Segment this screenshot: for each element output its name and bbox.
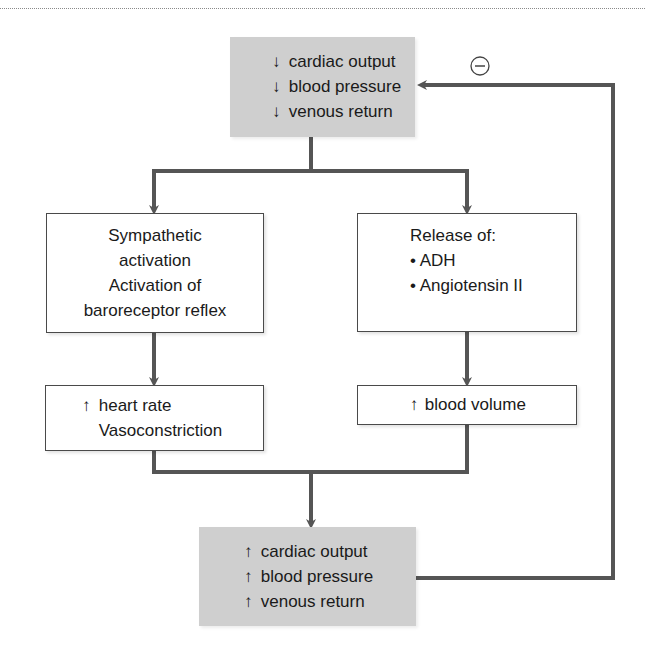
down-arrow-icon: ↓ <box>272 99 284 124</box>
sympathetic-activation-box: Sympathetic activation Activation of bar… <box>46 213 264 333</box>
hormone-release-box: Release of: • ADH • Angiotensin II <box>357 213 577 332</box>
increase-state-box: ↑ cardiac output ↑ blood pressure ↑ veno… <box>199 527 416 626</box>
effect-line: Vasoconstriction <box>82 418 263 443</box>
release-title: Release of: <box>410 223 576 248</box>
up-arrow-icon: ↑ <box>244 539 256 564</box>
down-arrow-icon: ↓ <box>272 49 284 74</box>
state-line: ↑ venous return <box>244 589 416 614</box>
state-line: ↑ cardiac output <box>244 539 416 564</box>
blood-volume-box: ↑ blood volume <box>357 385 577 425</box>
effect-line: ↑ heart rate <box>82 393 263 418</box>
bullet-item: • Angiotensin II <box>410 273 576 298</box>
state-line: ↑ blood pressure <box>244 564 416 589</box>
up-arrow-icon: ↑ <box>82 393 94 418</box>
effect-line: ↑ blood volume <box>358 392 576 417</box>
state-line: ↓ blood pressure <box>272 74 415 99</box>
decrease-state-box: ↓ cardiac output ↓ blood pressure ↓ veno… <box>230 37 415 137</box>
heart-rate-box: ↑ heart rate Vasoconstriction <box>45 385 264 451</box>
up-arrow-icon: ↑ <box>244 589 256 614</box>
bullet-item: • ADH <box>410 248 576 273</box>
down-arrow-icon: ↓ <box>272 74 284 99</box>
up-arrow-icon: ↑ <box>244 564 256 589</box>
state-line: ↓ cardiac output <box>272 49 415 74</box>
up-arrow-icon: ↑ <box>408 392 420 417</box>
state-line: ↓ venous return <box>272 99 415 124</box>
minus-sign-icon <box>471 57 489 75</box>
